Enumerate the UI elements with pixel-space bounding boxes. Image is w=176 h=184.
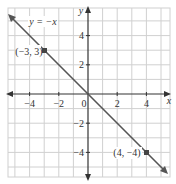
x-tick-label: 4 — [144, 98, 149, 109]
y-tick-label: −2 — [73, 118, 84, 129]
y-axis-label: y — [78, 5, 84, 16]
y-axis-up-arrow-icon — [85, 6, 91, 13]
point-neg3-3 — [42, 48, 47, 53]
equation-label: y = −x — [28, 16, 57, 27]
x-axis-label: x — [166, 95, 172, 106]
point-4-neg4 — [144, 150, 149, 155]
y-tick-label: −4 — [73, 147, 84, 158]
point-a-label: (−3, 3) — [15, 46, 42, 58]
y-tick-label: 2 — [79, 59, 84, 70]
x-tick-label: −4 — [24, 98, 35, 109]
origin-label: 0 — [82, 98, 87, 109]
x-axis-left-arrow-icon — [6, 91, 13, 97]
coordinate-plane: −4 −2 0 2 4 4 2 −2 −4 x y y = −x (−3, 3)… — [0, 0, 176, 184]
x-tick-label: 2 — [115, 98, 120, 109]
y-tick-label: 4 — [79, 30, 84, 41]
point-b-label: (4, −4) — [113, 147, 140, 159]
x-tick-label: −2 — [53, 98, 64, 109]
graph-svg: −4 −2 0 2 4 4 2 −2 −4 x y y = −x (−3, 3)… — [0, 0, 176, 184]
